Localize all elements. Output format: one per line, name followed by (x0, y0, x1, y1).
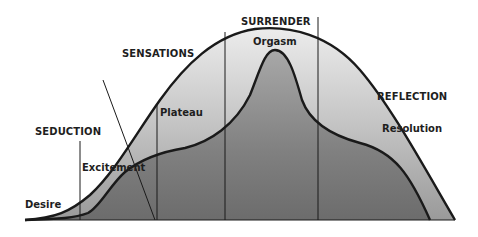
phase-label-seduction: SEDUCTION (35, 127, 101, 137)
phase-label-sensations: SENSATIONS (122, 49, 194, 59)
phase-label-reflection: REFLECTION (377, 92, 447, 102)
stage-label-plateau: Plateau (160, 108, 203, 118)
stage-label-resolution: Resolution (382, 124, 442, 134)
sexual-response-cycle-diagram (0, 0, 478, 237)
phase-label-surrender: SURRENDER (241, 17, 311, 27)
stage-label-excitement: Excitement (82, 163, 145, 173)
stage-label-orgasm: Orgasm (253, 37, 297, 47)
stage-label-desire: Desire (25, 200, 61, 210)
